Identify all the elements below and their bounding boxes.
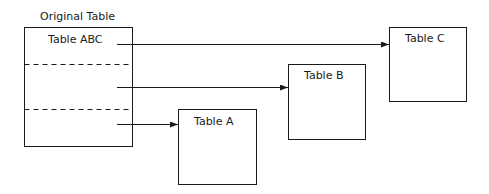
diagram-canvas (0, 0, 489, 194)
table-b-label: Table B (304, 70, 344, 82)
table-abc-label: Table ABC (48, 34, 103, 46)
original-table-caption: Original Table (40, 11, 115, 23)
table-c-label: Table C (405, 33, 445, 45)
table-a-label: Table A (194, 116, 233, 128)
